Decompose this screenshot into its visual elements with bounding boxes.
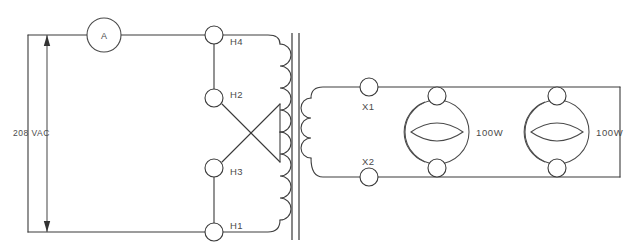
lamp-2-label: 100W [596,127,623,138]
terminal-h4-label: H4 [230,36,243,47]
terminal-h2[interactable] [205,89,223,107]
terminal-h2-label: H2 [230,89,243,100]
dimension-arrow-top [44,35,50,46]
primary-interconnects [214,35,280,232]
secondary-terminals: X1 X2 [360,78,378,186]
secondary-winding [301,87,369,177]
transformer-core [292,33,299,240]
terminal-h3-label: H3 [230,166,243,177]
lamp-2-terminal-top [548,87,566,105]
lamp-1[interactable]: 100W [404,87,503,177]
ammeter[interactable]: A [87,18,121,52]
lamp-1-terminal-bottom [428,159,446,177]
supply-voltage-label: 208 VAC [13,128,50,138]
primary-lower-lead [214,220,280,232]
lamp-1-label: 100W [476,127,503,138]
primary-winding [214,35,291,232]
primary-upper-lead [214,35,280,44]
terminal-h4[interactable] [205,26,223,44]
primary-lower-coil [280,132,291,220]
lamp-1-inner-arc [404,102,425,162]
terminal-x1[interactable] [360,78,378,96]
primary-terminals: H4 H2 H3 H1 [205,26,243,241]
terminal-x2-label: X2 [362,156,374,167]
lamp-2-filament [531,123,583,141]
terminal-x2[interactable] [360,168,378,186]
secondary-coil [301,98,311,158]
dimension-arrow-bottom [44,221,50,232]
lamp-1-terminal-top [428,87,446,105]
supply-loop [28,35,214,232]
lamp-1-globe [405,100,469,164]
primary-upper-coil [280,44,291,132]
terminal-h1[interactable] [205,223,223,241]
lamp-1-filament [411,123,463,141]
lamp-2[interactable]: 100W [524,87,623,177]
circuit-diagram: A 208 VAC [0,0,631,252]
schematic-canvas: A 208 VAC [0,0,631,252]
terminal-x1-label: X1 [362,101,374,112]
terminal-h3[interactable] [205,159,223,177]
lamp-2-globe [525,100,589,164]
terminal-h1-label: H1 [230,220,243,231]
lamp-2-inner-arc [524,102,545,162]
ammeter-label: A [101,31,107,41]
lamp-2-terminal-bottom [548,159,566,177]
voltage-dimension: 208 VAC [13,35,50,232]
